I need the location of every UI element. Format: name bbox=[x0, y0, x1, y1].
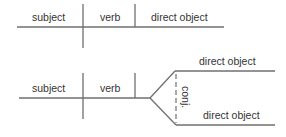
simple-sentence-diagram: subject verb direct object bbox=[17, 4, 224, 48]
sentence-diagrams: subject verb direct object subject verb … bbox=[0, 0, 286, 137]
subject-label: subject bbox=[32, 11, 65, 23]
conjunction-label: conj. bbox=[180, 86, 192, 108]
fork-upper-branch bbox=[150, 71, 175, 98]
direct-object-label: direct object bbox=[151, 11, 208, 23]
compound-direct-object-diagram: subject verb direct object direct object… bbox=[19, 55, 275, 125]
verb-label: verb bbox=[100, 82, 121, 94]
subject-label: subject bbox=[32, 82, 65, 94]
direct-object-2-label: direct object bbox=[203, 109, 260, 121]
direct-object-1-label: direct object bbox=[199, 55, 256, 67]
fork-lower-branch bbox=[150, 98, 176, 125]
verb-label: verb bbox=[100, 11, 121, 23]
